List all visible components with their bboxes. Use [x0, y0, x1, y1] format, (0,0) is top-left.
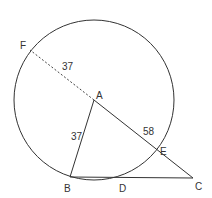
point-label-b: B — [64, 183, 71, 194]
point-label-f: F — [20, 40, 26, 51]
point-label-a: A — [96, 90, 103, 101]
length-label-ae: 58 — [143, 126, 155, 137]
point-label-d: D — [119, 183, 126, 194]
point-label-e: E — [160, 146, 167, 157]
segment-af-dashed — [30, 50, 94, 100]
length-label-ab: 37 — [71, 131, 83, 142]
geometry-diagram: F A B D E C 37 37 58 — [0, 0, 212, 198]
segment-ac — [94, 100, 193, 178]
segment-bc — [70, 177, 193, 178]
length-label-af: 37 — [62, 61, 74, 72]
point-label-c: C — [195, 181, 202, 192]
